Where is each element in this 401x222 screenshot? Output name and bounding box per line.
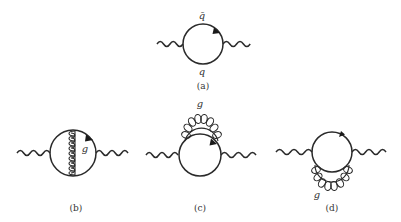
caption-d: (d)	[326, 203, 339, 213]
gluon-loop	[181, 114, 223, 141]
antiquark-label: q̄	[199, 10, 205, 21]
caption-c: (c)	[194, 203, 206, 213]
feynman-diagrams-figure: q̄ q (a) g (b)	[0, 0, 401, 222]
wavy-line-right	[96, 151, 128, 156]
diagram-c: g (c)	[146, 98, 256, 213]
diagram-b: g (b)	[17, 130, 128, 213]
gluon-loop	[311, 165, 354, 191]
gluon-label: g	[82, 143, 88, 154]
wavy-line-right	[352, 150, 386, 155]
gluon-line	[69, 131, 75, 176]
quark-label: q	[199, 66, 205, 77]
gluon-label: g	[197, 98, 203, 109]
wavy-line-right	[221, 153, 256, 158]
wavy-line-right	[223, 42, 250, 47]
wavy-line-left	[157, 42, 183, 47]
caption-a: (a)	[197, 81, 209, 91]
wavy-line-left	[146, 153, 178, 158]
caption-b: (b)	[70, 203, 83, 213]
wavy-line-left	[276, 150, 312, 155]
diagram-d: g (d)	[276, 131, 386, 213]
wavy-line-left	[17, 151, 50, 156]
quark-loop	[183, 24, 223, 64]
diagram-a: q̄ q (a)	[157, 10, 250, 91]
gluon-label: g	[314, 189, 320, 200]
quark-loop	[312, 132, 352, 172]
